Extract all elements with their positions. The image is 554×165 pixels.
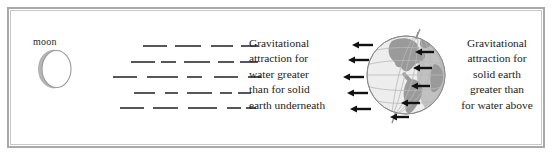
caption-left-line-5: earth underneath <box>249 98 345 113</box>
force-line-dash <box>165 92 178 94</box>
caption-right-line-2: attraction for <box>447 51 547 66</box>
force-line-dash <box>184 61 210 63</box>
force-line-dash <box>161 61 176 63</box>
caption-left-line-1: Gravitational <box>249 36 345 51</box>
force-line-dash <box>211 45 233 47</box>
force-line-dash <box>120 107 144 109</box>
force-line-dash <box>147 76 178 78</box>
earth-svg <box>364 24 448 126</box>
force-line-dash <box>131 61 155 63</box>
force-line-dash <box>187 76 202 78</box>
caption-right-line-3: solid earth <box>447 67 547 82</box>
diagram-stage: moon Gravitational attraction for water … <box>0 0 554 165</box>
earth-globe <box>364 24 448 126</box>
moon-icon <box>36 49 73 89</box>
force-line-dash <box>218 61 234 63</box>
caption-water-greater: Gravitational attraction for water great… <box>249 36 345 113</box>
force-line-dash <box>220 92 232 94</box>
force-line-dash <box>143 45 167 47</box>
caption-right-line-1: Gravitational <box>447 36 547 51</box>
force-line-dash <box>188 107 217 109</box>
force-line-dash <box>113 76 137 78</box>
force-line-dash <box>134 92 155 94</box>
caption-right-line-5: for water above <box>447 98 547 113</box>
caption-left-line-3: water greater <box>249 67 345 82</box>
caption-solid-earth-greater: Gravitational attraction for solid earth… <box>447 36 547 113</box>
force-line-dash <box>214 76 238 78</box>
force-line-dash <box>187 92 212 94</box>
caption-right-line-4: greater than <box>447 82 547 97</box>
force-line-dash <box>153 107 178 109</box>
force-line-dash <box>227 107 241 109</box>
force-line-dash <box>175 45 201 47</box>
earth-axis-south <box>392 112 396 123</box>
moon-svg <box>36 49 73 89</box>
caption-left-line-4: than for solid <box>249 82 345 97</box>
moon-disc <box>42 51 71 88</box>
caption-left-line-2: attraction for <box>249 51 345 66</box>
tidal-force-diagram: moon Gravitational attraction for water … <box>0 0 554 165</box>
